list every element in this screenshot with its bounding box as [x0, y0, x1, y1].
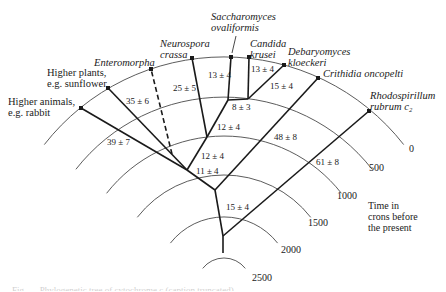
- time-arc-2000: [170, 217, 277, 243]
- branch-value: 12 ± 4: [201, 152, 224, 161]
- species-label-debaryomyces: Debaryomyceskloeckeri: [288, 46, 350, 68]
- time-label-1000: 1000: [337, 191, 357, 201]
- species-label-line1: Crithidia oncopelti: [323, 68, 403, 79]
- tree-canvas: [0, 0, 446, 292]
- branch-crithidia: [215, 78, 318, 190]
- species-label-crithidia: Crithidia oncopelti: [323, 68, 403, 79]
- time-label-2500: 2500: [252, 273, 272, 283]
- figure-caption: Fig. — Phylogenetic tree of cytochrome c…: [12, 285, 432, 291]
- species-label-line1: Candida: [250, 38, 286, 49]
- branch-rhodospirillum: [223, 111, 369, 236]
- branch-rabbit: [81, 108, 187, 170]
- branch-value: 61 ± 8: [316, 158, 339, 167]
- species-label-line2: krusei: [250, 49, 286, 60]
- branch-value: 13 ± 4: [251, 65, 274, 74]
- branch-value: 12 ± 4: [217, 123, 240, 132]
- species-label-line1: Higher animals,: [8, 96, 75, 107]
- species-label-saccharomyces: Saccharomycesovaliformis: [211, 11, 276, 33]
- species-label-neurospora: Neurosporacrassa: [160, 38, 210, 60]
- time-label-500: 500: [369, 163, 384, 173]
- species-label-sunflower: Higher plants,e.g. sunflower: [47, 67, 107, 89]
- time-label-0: 0: [409, 144, 414, 154]
- node-crithidia: [316, 76, 320, 80]
- time-label-2000: 2000: [281, 245, 301, 255]
- species-label-line1: Saccharomyces: [211, 11, 276, 22]
- species-label-line1: Neurospora: [160, 38, 210, 49]
- node-saccharomyces: [229, 55, 233, 59]
- time-arc-2500: [203, 258, 246, 268]
- species-label-line2: rubrum c₂: [370, 101, 435, 112]
- time-axis-title-line1: Time in: [368, 200, 418, 211]
- species-label-line2: e.g. sunflower: [47, 78, 107, 89]
- branch-value: 8 ± 3: [232, 103, 250, 112]
- phylogenetic-tree-diagram: Higher animals,e.g. rabbitHigher plants,…: [0, 0, 446, 292]
- branch-root-to-b: [215, 190, 223, 236]
- species-label-rabbit: Higher animals,e.g. rabbit: [8, 96, 75, 118]
- species-label-line1: Higher plants,: [47, 67, 107, 78]
- saccharomyces-pointer: [232, 36, 236, 53]
- node-debaryomyces: [282, 63, 286, 67]
- time-label-1500: 1500: [308, 218, 328, 228]
- branch-value: 11 ± 4: [196, 167, 219, 176]
- branch-value: 39 ± 7: [107, 138, 130, 147]
- species-label-line2: crassa: [160, 49, 210, 60]
- branch-enteromorpha: [151, 69, 172, 154]
- branch-value: 48 ± 8: [274, 133, 297, 142]
- species-label-candida: Candidakrusei: [250, 38, 286, 60]
- time-axis-title-line2: crons before: [368, 211, 418, 222]
- branch-value: 25 ± 5: [173, 84, 196, 93]
- time-axis-title-line3: the present: [368, 222, 418, 233]
- branch-candida: [248, 57, 249, 99]
- species-label-line1: Enteromorpha: [94, 57, 155, 68]
- branch-value: 35 ± 6: [126, 97, 149, 106]
- branch-neurospora: [192, 58, 207, 137]
- time-axis-title: Time in crons before the present: [368, 200, 418, 233]
- branch-value: 15 ± 4: [226, 203, 249, 212]
- species-label-line2: kloeckeri: [288, 57, 350, 68]
- species-label-line2: e.g. rabbit: [8, 107, 75, 118]
- branch-value: 13 ± 4: [208, 71, 231, 80]
- species-label-line2: ovaliformis: [211, 22, 276, 33]
- branch-e-to-f: [228, 99, 248, 100]
- species-label-enteromorpha: Enteromorpha: [94, 57, 155, 68]
- species-label-line1: Debaryomyces: [288, 46, 350, 57]
- species-label-line1: Rhodospirillum: [370, 90, 435, 101]
- node-rabbit: [79, 106, 83, 110]
- species-label-rhodospirillum: Rhodospirillumrubrum c₂: [370, 90, 435, 112]
- branch-value: 15 ± 4: [270, 82, 293, 91]
